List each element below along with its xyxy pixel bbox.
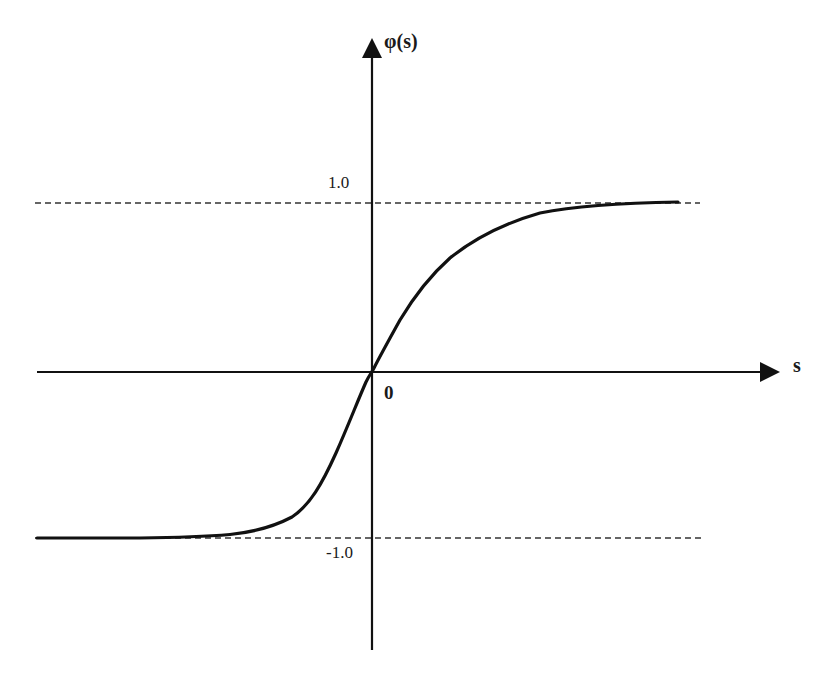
x-axis-label: s (793, 354, 801, 376)
y-axis-label: φ(s) (384, 30, 418, 53)
y-tick-label-top: 1.0 (328, 173, 349, 192)
y-axis-arrow-icon (362, 38, 382, 58)
x-axis-arrow-icon (760, 362, 780, 382)
origin-label: 0 (384, 382, 394, 403)
y-tick-label-bottom: -1.0 (326, 543, 353, 562)
sigmoid-chart: φ(s) s 0 1.0 -1.0 (0, 0, 836, 678)
sigmoid-curve (37, 202, 678, 538)
